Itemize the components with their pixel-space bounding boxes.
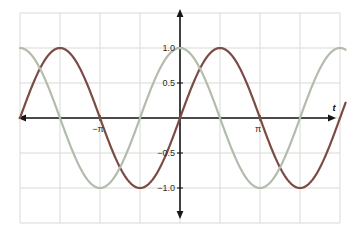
x-axis-right-arrow-icon bbox=[328, 114, 336, 121]
trig-functions-graph: 1.00.5−0.5−1.0−ππt bbox=[0, 0, 356, 238]
y-tick-label: −0.5 bbox=[157, 148, 175, 158]
y-tick-label: 0.5 bbox=[162, 78, 175, 88]
y-tick-label: 1.0 bbox=[162, 43, 175, 53]
x-tick-label: −π bbox=[92, 124, 103, 134]
x-axis-variable-label: t bbox=[332, 102, 336, 113]
plot-canvas: 1.00.5−0.5−1.0−ππt bbox=[0, 0, 356, 238]
y-tick-label: −1.0 bbox=[157, 183, 175, 193]
x-tick-label: π bbox=[255, 124, 261, 134]
y-axis-bottom-arrow-icon bbox=[177, 211, 184, 219]
